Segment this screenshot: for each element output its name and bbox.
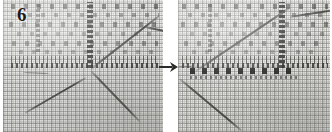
fabric-lighting-overlay xyxy=(3,0,163,132)
figure-root: 6 xyxy=(0,0,332,132)
panel-after xyxy=(178,0,330,132)
arrow-right-icon xyxy=(159,60,179,74)
panel-number-label: 6 xyxy=(17,5,27,24)
panel-before: 6 xyxy=(3,0,163,132)
fabric-lighting-overlay xyxy=(178,0,330,132)
